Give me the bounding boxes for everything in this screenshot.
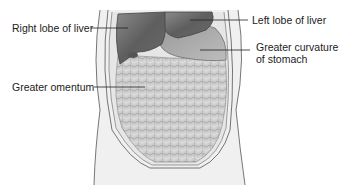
abdominal-anatomy-diagram: Right lobe of liver Left lobe of liver G… (0, 0, 341, 185)
label-left-lobe-of-liver: Left lobe of liver (252, 14, 326, 26)
label-greater-curvature-line2: of stomach (256, 53, 307, 65)
label-greater-omentum: Greater omentum (12, 81, 94, 93)
gallbladder (128, 52, 138, 58)
label-right-lobe-of-liver: Right lobe of liver (12, 22, 93, 34)
label-greater-curvature-line1: Greater curvature (256, 41, 338, 53)
